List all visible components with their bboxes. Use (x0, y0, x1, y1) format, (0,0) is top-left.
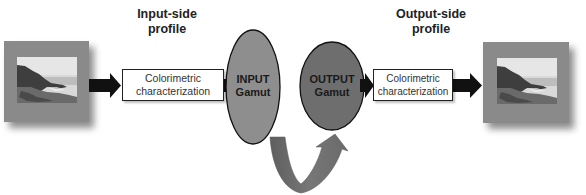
box-text-line: characterization (136, 85, 210, 98)
box-text-line: characterization (378, 85, 449, 98)
diagram-shapes (0, 0, 586, 195)
gamut-label-line: Gamut (226, 86, 280, 99)
flow-arrow-icon (89, 73, 121, 98)
gamut-label-line: OUTPUT (300, 73, 364, 86)
gamut-mapping-curved-arrow-icon (270, 134, 348, 193)
gamut-label-line: INPUT (226, 73, 280, 86)
flow-arrow-icon (452, 73, 482, 98)
gamut-label-line: Gamut (300, 86, 364, 99)
box-text-line: Colorimetric (145, 72, 201, 85)
box-text-line: Colorimetric (386, 72, 439, 85)
input-colorimetric-characterization-box: Colorimetric characterization (122, 69, 224, 101)
output-gamut-label: OUTPUT Gamut (300, 73, 364, 99)
output-colorimetric-characterization-box: Colorimetric characterization (373, 69, 453, 101)
input-gamut-label: INPUT Gamut (226, 73, 280, 99)
